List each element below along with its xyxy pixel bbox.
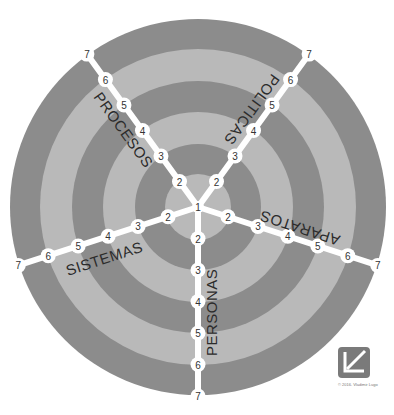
vl-logo: © 2016. Vladimir Lugo	[338, 347, 378, 387]
node-number: 5	[195, 328, 201, 339]
node-sistemas-2: 2	[161, 209, 176, 224]
node-number: 3	[195, 265, 201, 276]
node-number: 1	[195, 202, 201, 213]
axis-label-personas: PERSONAS	[203, 269, 220, 356]
node-politicas-2: 2	[209, 174, 224, 189]
node-number: 7	[84, 49, 90, 60]
node-number: 6	[345, 251, 351, 262]
node-procesos-6: 6	[98, 72, 113, 87]
node-number: 2	[165, 212, 171, 223]
node-number: 4	[140, 126, 146, 137]
node-number: 7	[306, 49, 312, 60]
node-politicas-3: 3	[228, 149, 243, 164]
maturity-radar-diagram: 2345672345672345672345672345671 PROCESOS…	[0, 0, 394, 415]
node-number: 6	[45, 251, 51, 262]
node-aparatos-6: 6	[340, 248, 355, 263]
node-number: 7	[15, 260, 21, 271]
node-number: 6	[195, 360, 201, 371]
node-number: 4	[195, 297, 201, 308]
node-center-1: 1	[192, 201, 204, 213]
node-number: 6	[288, 75, 294, 86]
node-sistemas-7: 7	[11, 258, 26, 273]
node-number: 7	[375, 260, 381, 271]
node-number: 3	[158, 151, 164, 162]
node-personas-7: 7	[191, 389, 206, 404]
node-number: 2	[177, 177, 183, 188]
node-aparatos-7: 7	[370, 258, 385, 273]
node-number: 2	[225, 212, 231, 223]
node-sistemas-6: 6	[41, 248, 56, 263]
node-politicas-6: 6	[283, 72, 298, 87]
node-number: 6	[103, 75, 109, 86]
node-politicas-7: 7	[302, 47, 317, 62]
node-sistemas-4: 4	[101, 229, 116, 244]
node-number: 7	[195, 391, 201, 402]
node-number: 2	[214, 177, 220, 188]
node-number: 4	[251, 126, 257, 137]
node-number: 2	[195, 234, 201, 245]
node-procesos-2: 2	[172, 174, 187, 189]
node-number: 5	[121, 100, 127, 111]
node-sistemas-5: 5	[71, 238, 86, 253]
node-personas-2: 2	[191, 231, 206, 246]
node-sistemas-3: 3	[131, 219, 146, 234]
node-personas-6: 6	[191, 357, 206, 372]
node-number: 5	[269, 100, 275, 111]
node-number: 3	[135, 221, 141, 232]
node-number: 4	[105, 231, 111, 242]
node-aparatos-2: 2	[220, 209, 235, 224]
node-number: 3	[232, 151, 238, 162]
node-procesos-7: 7	[79, 47, 94, 62]
node-number: 5	[75, 241, 81, 252]
copyright-text: © 2016. Vladimir Lugo	[338, 382, 378, 387]
